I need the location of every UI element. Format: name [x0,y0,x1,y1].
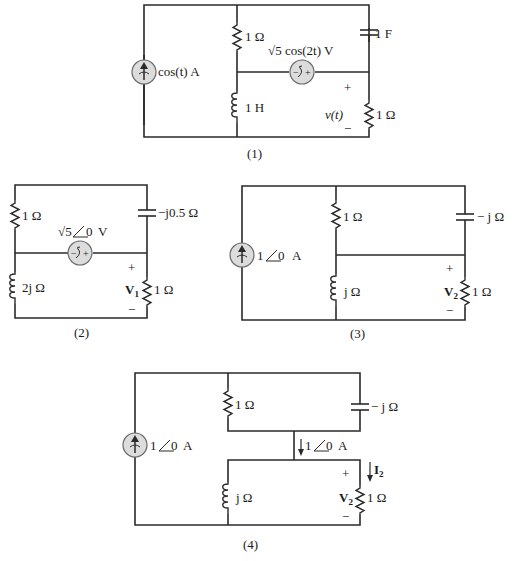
resistor-icon [224,388,232,418]
output-voltage-label: v(t) [325,107,343,122]
capacitor-icon [351,404,369,410]
svg-text:+: + [83,248,89,259]
svg-text:1: 1 [150,438,157,453]
caption: (1) [247,146,262,161]
resistor-label: 1 Ω [22,208,41,223]
circuit-3: 1 0 A 1 Ω − j Ω j Ω + V2 1 Ω − (3) [230,186,504,341]
capacitor-label: 1 F [375,26,392,41]
current-source-label: 1 0 A [257,248,302,263]
capacitor-icon [138,210,156,216]
svg-text:1: 1 [305,438,312,453]
caption: (3) [350,326,365,341]
resistor-icon [332,200,340,230]
resistor-label: 1 Ω [343,209,362,224]
resistor-icon [143,277,151,307]
voltage-source-label: √5 cos(2t) V [268,43,334,58]
svg-text:A: A [338,438,348,453]
resistor-load-label: 1 Ω [367,490,386,505]
resistor-icon [356,485,364,515]
inductor-icon [232,91,237,123]
svg-text:0: 0 [326,438,333,453]
minus-sign: − [342,509,349,524]
svg-text:1: 1 [257,248,264,263]
plus-sign: + [342,466,349,481]
svg-text:A: A [292,248,302,263]
capacitor-label: −j0.5 Ω [158,205,198,220]
inductor-label: j Ω [235,490,253,505]
svg-text:+: + [305,67,311,78]
capacitor-icon [456,214,474,220]
caption: (2) [74,325,89,340]
resistor-icon [365,100,373,130]
circuit-4: 1 0 A 1 Ω − j Ω 1 0 A I2 j Ω + V2 1 Ω − … [123,373,398,552]
svg-text:A: A [183,438,193,453]
current-source-label: 1 0 A [150,438,193,453]
circuit-1: − + cos(t) A 1 Ω √5 cos(2t) V 1 F 1 H + … [132,5,395,161]
output-voltage-label: V1 [125,282,139,299]
voltage-source-icon: − + [290,60,314,84]
inductor-label: 2j Ω [22,280,45,295]
resistor-icon [11,200,19,230]
current-source-label: cos(t) A [158,64,200,79]
resistor-load-label: 1 Ω [376,107,395,122]
resistor-label: 1 Ω [235,397,254,412]
svg-text:0: 0 [171,438,178,453]
circuit-figure: − + cos(t) A 1 Ω √5 cos(2t) V 1 F 1 H + … [0,0,514,561]
svg-text:V: V [98,224,108,239]
inductor-label: 1 H [245,100,264,115]
inductor-icon [331,274,336,306]
arrow-down-icon [367,462,373,482]
current-source-icon [123,433,147,457]
inductor-icon [223,482,228,514]
plus-sign: + [128,260,135,275]
resistor-load-label: 1 Ω [472,284,491,299]
minus-sign: − [446,303,453,318]
output-voltage-label: V2 [339,490,353,507]
arrow-down-icon [298,439,304,456]
svg-text:0: 0 [278,248,285,263]
resistor-icon [461,277,469,307]
resistor-load-label: 1 Ω [154,282,173,297]
minus-sign: − [344,121,351,136]
caption: (4) [243,537,258,552]
output-voltage-label: V2 [444,284,458,301]
current-source-icon [132,60,156,84]
plus-sign: + [344,80,351,95]
inductor-label: j Ω [343,284,361,299]
inductor-icon [10,272,15,304]
current-source-icon [230,243,254,267]
wire [15,185,147,210]
wire [228,460,360,485]
plus-sign: + [446,261,453,276]
svg-text:√5: √5 [58,224,72,239]
load-current-label: I2 [374,462,384,479]
voltage-source-icon: − + [68,241,92,265]
branch-current-label: 1 0 A [305,438,348,453]
svg-text:0: 0 [86,224,93,239]
voltage-source-label: √5 0 V [58,224,108,239]
resistor-icon [233,22,241,52]
circuit-2: − + 1 Ω √5 0 V −j0.5 Ω 2j Ω + V1 1 Ω − (… [10,185,198,340]
resistor-label: 1 Ω [245,29,264,44]
wire [228,410,360,431]
capacitor-label: − j Ω [477,209,504,224]
minus-sign: − [128,302,135,317]
capacitor-label: − j Ω [371,399,398,414]
